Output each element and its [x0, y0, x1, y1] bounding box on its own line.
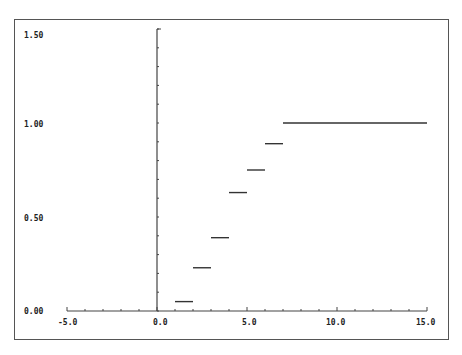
y-label-1-50: 1.50	[24, 31, 43, 40]
x-label-15: 15.0	[416, 318, 435, 327]
x-tick-labels: -5.0 0.0 5.0 10.0 15.0	[58, 318, 435, 327]
y-label-0-50: 0.50	[24, 214, 43, 223]
x-label-0: 0.0	[153, 318, 168, 327]
x-label-10: 10.0	[326, 318, 345, 327]
step-chart: 1.50 1.00 0.50 0.00 -5.0 0.0 5.0 10.0 15…	[0, 0, 462, 355]
x-label-5: 5.0	[242, 318, 257, 327]
x-label-neg5: -5.0	[58, 318, 77, 327]
y-tick-labels: 1.50 1.00 0.50 0.00	[24, 31, 43, 316]
step-series	[175, 123, 427, 302]
y-label-1-00: 1.00	[24, 120, 43, 129]
y-label-0-00: 0.00	[24, 307, 43, 316]
